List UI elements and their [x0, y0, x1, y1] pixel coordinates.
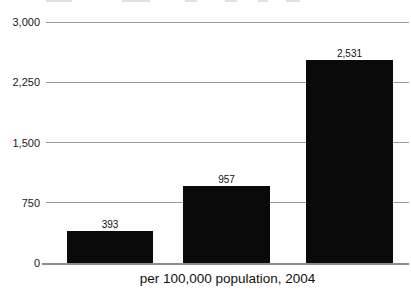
cropped-title-remnant [225, 0, 237, 2]
bar-value-label: 393 [57, 220, 163, 230]
y-tick-label: 750 [0, 196, 40, 210]
x-axis-caption: per 100,000 population, 2004 [46, 271, 409, 287]
y-tick-label: 2,250 [0, 75, 40, 89]
cropped-title-remnant [46, 0, 72, 2]
bar-value-label: 957 [173, 175, 280, 185]
cropped-title-remnant [185, 0, 197, 2]
bar [67, 231, 153, 263]
bar [183, 186, 270, 263]
x-axis-line [42, 263, 409, 265]
cropped-title-remnant [286, 0, 300, 2]
y-tick-label: 1,500 [0, 136, 40, 150]
bar-chart-figure: 07501,5002,2503,0003939572,531 per 100,0… [0, 0, 411, 291]
gridline [46, 22, 409, 23]
bar-value-label: 2,531 [296, 49, 403, 59]
bar [306, 60, 393, 263]
cropped-title-remnant [122, 0, 150, 2]
cropped-title-remnant [258, 0, 268, 2]
y-tick-label: 3,000 [0, 15, 40, 29]
y-tick-label: 0 [0, 256, 40, 270]
